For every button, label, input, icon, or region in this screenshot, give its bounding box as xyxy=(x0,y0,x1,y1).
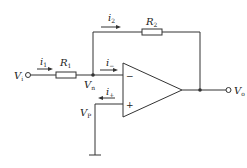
input-path xyxy=(26,72,124,78)
node-vn xyxy=(91,73,95,77)
label-i-minus: i− xyxy=(106,57,114,69)
output-path xyxy=(182,88,231,93)
label-vp: VP xyxy=(80,107,91,119)
label-vo: Vo xyxy=(234,85,245,97)
label-r2: R2 xyxy=(145,16,158,28)
label-i-plus: i+ xyxy=(106,86,114,98)
resistor-r2 xyxy=(142,29,162,35)
ground-path xyxy=(89,104,123,155)
circuit-diagram: − + Vi i1 R1 Vn i2 R2 i− xyxy=(0,0,247,168)
node-output xyxy=(198,88,202,92)
resistor-r1 xyxy=(56,72,76,78)
label-vn: Vn xyxy=(84,79,95,91)
label-vi: Vi xyxy=(14,70,23,82)
arrow-iplus-icon xyxy=(98,96,103,100)
opamp: − + xyxy=(123,63,182,117)
label-i1: i1 xyxy=(40,56,47,68)
inverting-sign: − xyxy=(126,71,134,81)
arrow-i2-icon xyxy=(116,25,121,29)
noninverting-sign: + xyxy=(126,100,134,110)
input-terminal xyxy=(26,73,31,78)
output-terminal xyxy=(226,88,231,93)
arrow-i1-icon xyxy=(48,67,53,71)
label-r1: R1 xyxy=(59,57,71,69)
label-i2: i2 xyxy=(108,12,115,24)
